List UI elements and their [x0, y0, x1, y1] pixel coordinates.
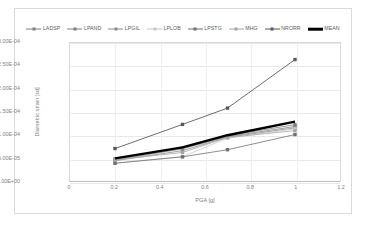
series-line — [115, 60, 295, 149]
y-tick-label: 2.50E-04 — [0, 62, 20, 67]
y-tick-label: 0.00E+00 — [0, 179, 20, 184]
chart-frame: LADSPLPANDLPGILLPLOBLPSTGMHGNRORRMEAN 0.… — [14, 8, 352, 214]
legend-item-ladsp[interactable]: LADSP — [26, 26, 60, 33]
legend-label: LPSTG — [204, 26, 222, 31]
legend-item-nrorr[interactable]: NRORR — [265, 26, 301, 33]
legend-item-lpand[interactable]: LPAND — [67, 26, 101, 33]
x-tick-label: 0 — [54, 185, 84, 190]
x-tick-label: 1 — [281, 185, 311, 190]
x-tick-label: 0.6 — [190, 185, 220, 190]
series-mhg — [113, 129, 296, 162]
chart-legend: LADSPLPANDLPGILLPLOBLPSTGMHGNRORRMEAN — [15, 23, 351, 35]
data-point-marker — [293, 129, 296, 132]
x-axis-title: PGA [g] — [69, 197, 341, 203]
y-tick-label: 1.50E-04 — [0, 109, 20, 114]
legend-item-lplob[interactable]: LPLOB — [147, 26, 181, 33]
x-tick-label: 0.2 — [99, 185, 129, 190]
series-lpstg — [113, 133, 296, 165]
legend-label: MEAN — [324, 26, 339, 31]
data-point-marker — [226, 148, 229, 151]
series-nrorr — [113, 58, 296, 150]
y-tick-label: 3.00E-04 — [0, 39, 20, 44]
y-tick-label: 1.00E-04 — [0, 132, 20, 137]
legend-label: LPAND — [84, 26, 101, 31]
series-line — [115, 129, 295, 163]
x-tick-label: 0.4 — [145, 185, 175, 190]
legend-item-mhg[interactable]: MHG — [229, 26, 258, 33]
data-point-marker — [113, 162, 116, 165]
y-axis-title: Diametric strain [εd] — [34, 87, 40, 136]
legend-swatch-icon — [265, 26, 280, 33]
data-point-marker — [113, 147, 116, 150]
legend-swatch-icon — [67, 26, 82, 33]
y-tick-label: 2.00E-04 — [0, 86, 20, 91]
legend-label: NRORR — [281, 26, 301, 31]
legend-swatch-icon — [26, 26, 41, 33]
legend-swatch-icon — [147, 26, 162, 33]
series-lplob — [113, 127, 296, 165]
legend-label: LADSP — [43, 26, 61, 31]
legend-item-mean[interactable]: MEAN — [308, 26, 340, 33]
data-point-marker — [181, 155, 184, 158]
data-point-marker — [226, 106, 229, 109]
chart-screenshot: LADSPLPANDLPGILLPLOBLPSTGMHGNRORRMEAN 0.… — [0, 0, 367, 225]
legend-label: LPLOB — [164, 26, 181, 31]
y-tick-label: 5.00E-05 — [0, 156, 20, 161]
legend-item-lpstg[interactable]: LPSTG — [188, 26, 222, 33]
legend-swatch-icon — [108, 26, 123, 33]
x-tick-label: 1.2 — [326, 185, 356, 190]
legend-swatch-icon — [188, 26, 203, 33]
legend-item-lpgil[interactable]: LPGIL — [108, 26, 140, 33]
data-point-marker — [181, 123, 184, 126]
legend-label: MHG — [245, 26, 257, 31]
x-tick-label: 0.8 — [235, 185, 265, 190]
data-point-marker — [293, 133, 296, 136]
data-point-marker — [181, 151, 184, 154]
legend-swatch-icon — [308, 26, 323, 33]
data-point-marker — [293, 58, 296, 61]
legend-swatch-icon — [229, 26, 244, 33]
series-layer — [70, 43, 340, 181]
plot-area — [69, 42, 341, 182]
legend-label: LPGIL — [125, 26, 140, 31]
series-lpand — [113, 125, 296, 162]
